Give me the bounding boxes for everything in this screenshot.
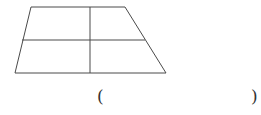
close-parenthesis: ) xyxy=(251,86,258,106)
open-parenthesis: ( xyxy=(97,86,104,106)
answer-blank[interactable] xyxy=(110,86,250,106)
